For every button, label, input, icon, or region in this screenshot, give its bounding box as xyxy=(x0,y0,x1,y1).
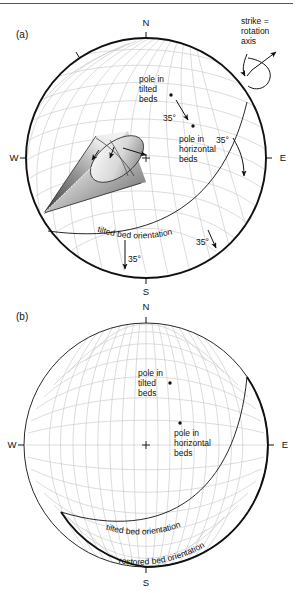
pole-horizontal-label-a-line2: horizontal xyxy=(179,144,216,154)
pole-horizontal-label-a-line1: pole in xyxy=(179,134,204,144)
compass-south-b: S xyxy=(143,577,149,588)
pole-tilted-label-b-line1: pole in xyxy=(138,368,163,378)
rotation-cone-diagram xyxy=(44,127,152,213)
tilted-bed-orientation-label-a: tilted bed orientation xyxy=(96,224,173,241)
strike-axis-label-line2: rotation xyxy=(241,26,270,36)
panel-b-label: (b) xyxy=(16,311,28,322)
compass-east-b: E xyxy=(282,439,288,450)
pole-horizontal-label-b-line1: pole in xyxy=(174,428,199,438)
compass-south-a: S xyxy=(143,286,149,296)
primitive-ticks-a xyxy=(20,32,272,284)
pole-horizontal-dot-a xyxy=(191,124,194,127)
figure-root: (a) N S W E strike = rotation axis pole … xyxy=(0,0,299,593)
compass-west-b: W xyxy=(8,439,17,450)
compass-east-a: E xyxy=(280,152,286,163)
pole-tilted-dot-b xyxy=(168,381,171,384)
compass-north-a: N xyxy=(143,17,150,28)
pole-tilted-label-a-line2: tilted xyxy=(139,84,157,94)
restored-bed-orientation-label-b: restored bed orientation xyxy=(118,539,206,566)
panel-a-label: (a) xyxy=(16,29,28,40)
pole-tilted-dot-a xyxy=(169,93,172,96)
angle-south-a: 35° xyxy=(128,254,141,264)
pole-horizontal-label-b-line2: horizontal xyxy=(174,438,211,448)
strike-axis-label-line3: axis xyxy=(241,36,256,46)
compass-north-b: N xyxy=(143,301,150,312)
rotation-axis-arrows xyxy=(243,52,276,89)
angle-pole-rotation-a: 35° xyxy=(163,113,176,123)
strike-axis-label-line1: strike = xyxy=(241,16,269,26)
pole-tilted-label-b-line2: tilted xyxy=(138,378,156,388)
pole-horizontal-label-a-line3: beds xyxy=(179,154,197,164)
panel-b-stereonet: (b) N S W E pole in tilted beds pole in … xyxy=(0,296,299,593)
angle-east-a: 35° xyxy=(216,135,229,145)
pole-horizontal-label-b-line3: beds xyxy=(174,448,192,458)
pole-horizontal-dot-b xyxy=(178,421,181,424)
panel-a-stereonet: (a) N S W E strike = rotation axis pole … xyxy=(0,0,299,296)
pole-tilted-label-a-line3: beds xyxy=(139,94,157,104)
pole-tilted-label-b-line3: beds xyxy=(138,388,156,398)
pole-tilted-label-a-line1: pole in xyxy=(139,74,164,84)
restored-bed-orientation-arc xyxy=(247,377,268,512)
angle-southeast-a: 35° xyxy=(196,237,209,247)
compass-west-a: W xyxy=(10,152,19,163)
